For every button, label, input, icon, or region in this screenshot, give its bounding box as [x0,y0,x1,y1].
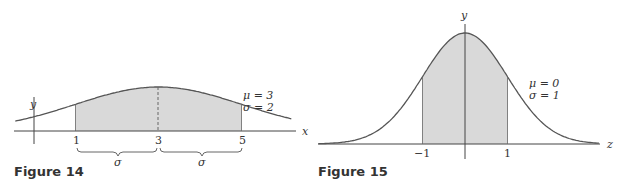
figure-14-brace-left [77,148,157,156]
figure-14-brace-label-right: σ [198,156,206,169]
figure-15-plot: y z −1 1 μ = 0 σ = 1 [318,9,613,160]
figure-14-brace-right [160,148,242,156]
figure-14-y-label: y [29,98,37,111]
figure-14-sigma-label: σ = 2 [243,101,274,114]
figure-15-tick-1: 1 [504,147,511,160]
figure-15-x-label: z [606,138,613,151]
figure-15-tick-neg1: −1 [414,147,430,160]
figure-14-tick-3: 3 [155,134,162,147]
figure-14-caption: Figure 14 [14,164,84,179]
figure-14-x-label: x [302,125,309,138]
figure-14-tick-1: 1 [73,134,80,147]
figure-14-plot: y x 1 3 5 σ σ μ = 3 σ = 2 [14,87,309,169]
normal-distribution-figures: y x 1 3 5 σ σ μ = 3 σ = 2 y z −1 1 μ = 0… [0,0,620,183]
figure-14-brace-label-left: σ [114,156,122,169]
figure-15-sigma-label: σ = 1 [529,89,560,102]
figure-15-caption: Figure 15 [318,164,388,179]
figure-14-tick-5: 5 [239,134,246,147]
figure-15-y-label: y [460,9,468,22]
